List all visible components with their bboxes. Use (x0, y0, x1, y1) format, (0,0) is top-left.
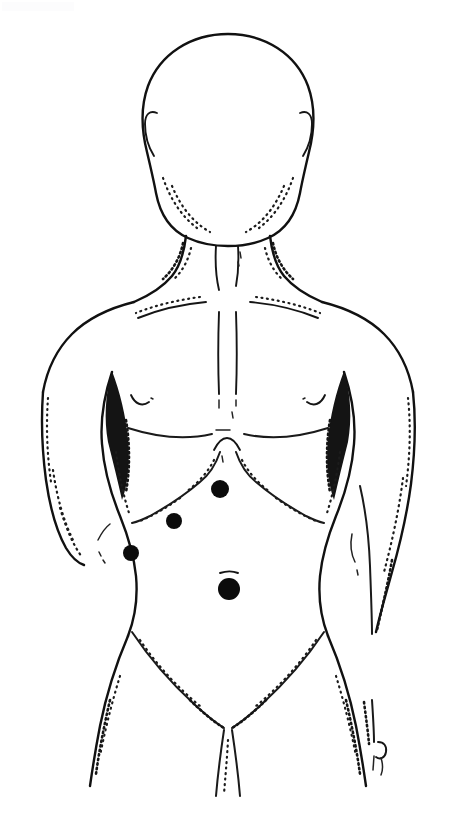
sternocleidomastoid (216, 246, 219, 290)
thigh-left (90, 636, 224, 796)
shoulder-right (322, 302, 413, 392)
thigh-right (224, 636, 366, 796)
body-outline-svg: Marker 1 — epigastricMarker 2 — left upp… (0, 0, 456, 832)
marker-2[interactable]: Marker 2 — left upper quadrant (166, 513, 182, 529)
elbow-crease (351, 534, 355, 562)
marker-1[interactable]: Marker 1 — epigastric (211, 480, 229, 498)
head (143, 34, 314, 246)
sternocleidomastoid (236, 246, 238, 286)
arm-left (42, 392, 110, 565)
marker-4[interactable]: Marker 4 — umbilical (218, 578, 240, 600)
nipple-right (307, 395, 325, 404)
inguinal-crease-right (232, 632, 324, 728)
sternum (218, 312, 219, 394)
shoulder-left (43, 302, 134, 392)
arm-right (351, 392, 415, 775)
elbow-crease (98, 524, 110, 540)
navel (220, 572, 238, 574)
marker-layer: Marker 1 — epigastricMarker 2 — left upp… (123, 480, 240, 600)
scan-artifact (2, 2, 74, 11)
body-diagram-figure: Anterior human torso body diagram Line d… (0, 0, 456, 832)
pectoral-fold-left (128, 428, 212, 437)
clavicle-left (138, 302, 206, 318)
clavicle-right (250, 302, 318, 318)
groin (232, 730, 240, 796)
ribcage (132, 438, 324, 523)
inguinal-crease-left (132, 632, 224, 728)
nipple-left (131, 395, 149, 404)
chest (128, 297, 328, 437)
groin (216, 730, 224, 796)
pectoral-fold-right (244, 428, 328, 437)
hand-right (364, 700, 386, 775)
sternum (236, 312, 237, 394)
marker-3[interactable]: Marker 3 — left flank (123, 545, 139, 561)
